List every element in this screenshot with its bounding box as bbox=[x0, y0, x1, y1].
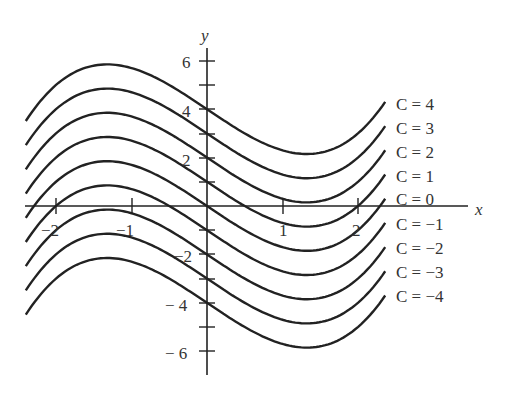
chart: y x −2 −1 1 2 6 4 2 −2 − 4 − 6 C = 4 C =… bbox=[0, 0, 506, 399]
curve-label: C = −4 bbox=[396, 287, 444, 306]
curve-label: C = −2 bbox=[396, 239, 444, 258]
x-tick-label: −1 bbox=[116, 221, 134, 240]
y-axis-label: y bbox=[199, 26, 209, 45]
curve-label: C = 0 bbox=[396, 190, 434, 209]
curve-label: C = 3 bbox=[396, 119, 434, 138]
y-tick-label: 4 bbox=[182, 102, 191, 121]
x-tick-label: −2 bbox=[41, 221, 59, 240]
y-tick-label: − 4 bbox=[165, 296, 188, 315]
x-tick-label: 2 bbox=[352, 221, 361, 240]
curve-label: C = 4 bbox=[396, 95, 434, 114]
x-tick-label: 1 bbox=[279, 221, 288, 240]
y-tick-label: 2 bbox=[182, 151, 191, 170]
y-tick-label: −2 bbox=[174, 247, 192, 266]
curve-label: C = −1 bbox=[396, 215, 444, 234]
curve-label: C = 2 bbox=[396, 143, 434, 162]
curve-label: C = 1 bbox=[396, 167, 434, 186]
curve-label: C = −3 bbox=[396, 263, 444, 282]
y-tick-label: 6 bbox=[182, 53, 191, 72]
curve-labels: C = 4 C = 3 C = 2 C = 1 C = 0 C = −1 C =… bbox=[396, 95, 444, 306]
x-axis-label: x bbox=[474, 200, 483, 219]
y-tick-label: − 6 bbox=[165, 344, 187, 363]
